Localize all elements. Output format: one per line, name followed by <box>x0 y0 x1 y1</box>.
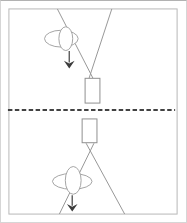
bottom-vertical-ellipse <box>65 167 81 195</box>
bottom-weight-rect <box>82 119 97 143</box>
figure-container <box>0 0 187 223</box>
diagram-canvas <box>1 1 186 222</box>
top-vertical-ellipse <box>59 27 73 51</box>
panel-frame <box>9 9 177 214</box>
top-weight-rect <box>85 78 100 103</box>
